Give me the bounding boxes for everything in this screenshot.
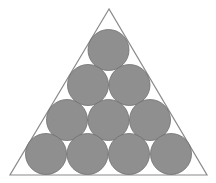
circle-row1-1 (88, 30, 129, 71)
circle-row4-1 (26, 134, 67, 175)
circle-row4-3 (109, 134, 150, 175)
circle-row4-2 (67, 134, 108, 175)
triangle-circles-figure (0, 0, 216, 183)
circle-group (26, 30, 192, 175)
circle-packing-diagram (0, 0, 216, 183)
circle-row4-4 (151, 134, 192, 175)
circle-row2-2 (109, 65, 150, 106)
circle-row2-1 (68, 65, 109, 106)
